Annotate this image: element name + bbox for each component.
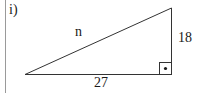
hypotenuse-label: n bbox=[75, 25, 82, 39]
horizontal-leg-label: 27 bbox=[94, 76, 108, 90]
triangle-hypotenuse bbox=[25, 8, 172, 75]
right-angle-dot-icon bbox=[164, 67, 167, 70]
figure-container: i) n 18 27 bbox=[0, 0, 203, 93]
vertical-leg-label: 18 bbox=[178, 31, 192, 45]
figure-item-label: i) bbox=[9, 3, 18, 17]
